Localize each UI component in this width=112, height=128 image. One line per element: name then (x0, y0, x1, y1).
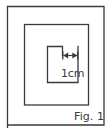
nested-squares-diagram: 1cm Fig. 1 (0, 0, 112, 128)
dimension-label: 1cm (61, 67, 84, 80)
figure-container: 1cm Fig. 1 (0, 0, 112, 128)
canvas-background (0, 0, 112, 128)
figure-caption: Fig. 1 (74, 110, 104, 123)
